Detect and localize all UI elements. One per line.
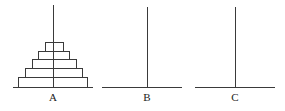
peg-label-c: C (231, 91, 238, 103)
disk-3 (33, 60, 77, 69)
disk-1 (46, 43, 64, 52)
peg-label-a: A (49, 91, 57, 103)
peg-label-b: B (143, 91, 150, 103)
peg-labels: A B C (49, 91, 239, 103)
tower-of-hanoi-diagram: A B C (0, 0, 285, 111)
